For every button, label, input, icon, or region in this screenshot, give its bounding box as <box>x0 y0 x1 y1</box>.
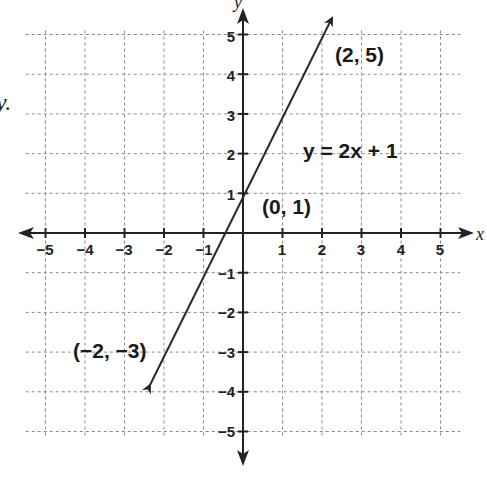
x-tick-label: 4 <box>397 241 406 258</box>
x-tick-label: −2 <box>155 241 172 258</box>
x-tick-labels: −5 −4 −3 −2 −1 1 2 3 4 5 <box>36 241 444 258</box>
coordinate-plane: −5 −4 −3 −2 −1 1 2 3 4 5 5 4 3 2 1 −1 −2… <box>0 0 487 480</box>
x-tick-label: 3 <box>357 241 365 258</box>
y-axis-label: y <box>232 0 242 12</box>
y-tick-label: −3 <box>218 344 235 361</box>
y-tick-label: −2 <box>218 304 235 321</box>
x-axis-label: x <box>475 224 484 244</box>
x-tick-label: 2 <box>318 241 326 258</box>
equation-label: y = 2x + 1 <box>303 139 398 162</box>
y-tick-label: 1 <box>227 186 235 203</box>
y-tick-label: 3 <box>227 107 235 124</box>
point-label-neg2-neg3: (−2, −3) <box>73 339 147 362</box>
x-tick-label: 1 <box>278 241 286 258</box>
y-tick-label: 4 <box>227 67 236 84</box>
point-label-2-5: (2, 5) <box>335 43 384 66</box>
y-tick-label: −1 <box>218 265 235 282</box>
point-label-0-1: (0, 1) <box>262 195 311 218</box>
y-tick-label: −5 <box>218 423 235 440</box>
x-tick-label: −4 <box>76 241 94 258</box>
y-tick-label: 2 <box>227 146 235 163</box>
y-tick-label: 5 <box>227 28 235 45</box>
y-tick-label: −4 <box>218 383 236 400</box>
x-tick-label: −3 <box>115 241 132 258</box>
margin-text: y. <box>0 89 11 115</box>
x-tick-label: 5 <box>436 241 444 258</box>
x-tick-label: −5 <box>36 241 53 258</box>
x-tick-label: −1 <box>195 241 212 258</box>
